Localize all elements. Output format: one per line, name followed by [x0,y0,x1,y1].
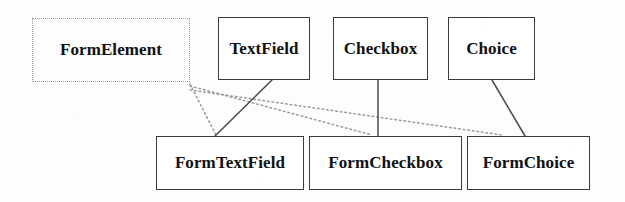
class-label-form-choice: FormChoice [483,153,575,173]
class-box-checkbox: Checkbox [333,17,428,80]
class-diagram: FormElement TextField Checkbox Choice Fo… [0,0,625,202]
class-box-form-choice: FormChoice [467,136,590,190]
class-label-form-checkbox: FormCheckbox [328,153,443,173]
class-label-form-element: FormElement [60,40,162,60]
class-label-checkbox: Checkbox [344,38,418,58]
class-box-choice: Choice [448,17,535,80]
class-box-form-text-field: FormTextField [156,136,304,190]
edge-choice-formchoice [492,80,525,136]
edge-textfield-formtextfield [215,80,272,136]
class-label-form-text-field: FormTextField [175,153,285,173]
class-box-form-element: FormElement [32,18,190,82]
class-box-form-checkbox: FormCheckbox [309,136,462,190]
class-label-choice: Choice [466,38,517,58]
class-box-text-field: TextField [218,17,310,80]
class-label-text-field: TextField [229,38,298,58]
